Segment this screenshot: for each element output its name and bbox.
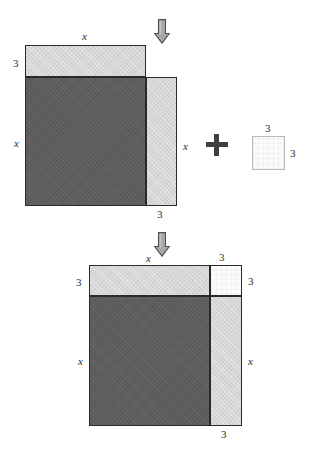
bottom-figure-top-right-width-label: 3 (219, 252, 225, 263)
bottom-figure-right-strip (210, 296, 242, 426)
bottom-figure-bottom-right-width-label: 3 (221, 429, 227, 440)
bottom-figure-left-side-label: x (78, 356, 83, 367)
bottom-figure-right-side-label: x (248, 356, 253, 367)
bottom-figure-corner-square (210, 265, 242, 296)
top-figure-right-strip (146, 77, 177, 206)
top-figure-right-side-label: x (183, 141, 188, 152)
top-figure-left-side-label: x (14, 138, 19, 149)
bottom-figure-top-width-label: x (146, 253, 151, 264)
plus-operator-icon (206, 134, 228, 156)
bottom-figure-main-square (89, 296, 210, 426)
top-figure-top-width-label: x (82, 31, 87, 42)
down-arrow-icon-top (154, 19, 170, 44)
bottom-figure-left-strip-height-label: 3 (76, 277, 82, 288)
diagram-canvas: x 3 x x 3 3 3 (0, 0, 311, 452)
bottom-figure-right-strip-height-label: 3 (248, 276, 254, 287)
bottom-figure-top-strip (89, 265, 210, 296)
top-figure-main-square (25, 77, 146, 206)
plus-vertical-bar (214, 134, 219, 156)
top-figure-bottom-right-width-label: 3 (157, 209, 163, 220)
added-square-top-label: 3 (265, 123, 271, 134)
top-figure-top-strip (25, 45, 146, 77)
top-figure-left-strip-height-label: 3 (13, 58, 19, 69)
down-arrow-icon-middle (154, 232, 170, 257)
added-square-right-label: 3 (290, 148, 296, 159)
added-square (252, 136, 285, 170)
